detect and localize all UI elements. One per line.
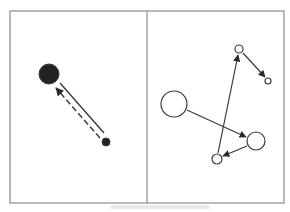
- node-R2: [235, 45, 243, 53]
- node-R4: [247, 132, 265, 150]
- node-R1: [161, 91, 187, 117]
- figure-caption-blurred: [110, 205, 210, 209]
- node-R3: [265, 78, 271, 84]
- node-R5: [212, 154, 222, 164]
- node-L1: [39, 64, 59, 84]
- node-L2: [102, 138, 110, 146]
- diagram-figure: [0, 0, 290, 212]
